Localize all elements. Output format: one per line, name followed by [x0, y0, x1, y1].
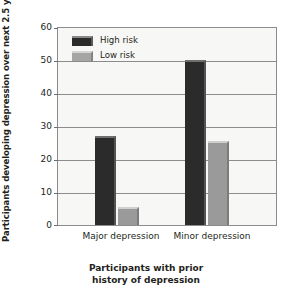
legend-item-high-risk: High risk [72, 34, 168, 47]
legend-label-high-risk: High risk [100, 36, 138, 45]
gridline-40 [58, 94, 276, 95]
y-tickmark-30 [54, 127, 58, 128]
y-tickmark-0 [54, 225, 58, 226]
y-tick-label-60: 60 [26, 23, 52, 32]
y-axis-title: Participants developing depression over … [2, 0, 11, 242]
x-category-label-minor-depression: Minor depression [157, 232, 267, 241]
x-axis-title-line-2: history of depression [0, 274, 292, 286]
bar-minor-depression-low-risk [208, 141, 229, 225]
legend-swatch-low-risk [72, 51, 93, 61]
y-axis-tick-labels: 60 50 40 30 20 10 0 [24, 0, 52, 246]
gridline-30 [58, 127, 276, 128]
y-tickmark-50 [54, 61, 58, 62]
plot-area: High risk Low risk [57, 27, 277, 226]
y-axis-title-container: Participants developing depression over … [0, 0, 20, 246]
bar-major-depression-low-risk [118, 207, 139, 225]
gridline-20 [58, 160, 276, 161]
x-axis-title-line-1: Participants with prior [0, 262, 292, 274]
chart-legend: High risk Low risk [72, 34, 168, 64]
x-axis-title: Participants with prior history of depre… [0, 262, 292, 286]
y-tick-label-40: 40 [26, 89, 52, 98]
y-tick-label-50: 50 [26, 56, 52, 65]
y-tick-label-0: 0 [26, 221, 52, 230]
bar-minor-depression-high-risk [185, 60, 206, 225]
gridline-10 [58, 193, 276, 194]
y-tick-label-30: 30 [26, 122, 52, 131]
bar-chart-figure: Participants developing depression over … [0, 0, 292, 293]
y-tickmark-20 [54, 160, 58, 161]
legend-label-low-risk: Low risk [100, 51, 135, 60]
y-tick-label-10: 10 [26, 188, 52, 197]
bar-major-depression-high-risk [95, 136, 116, 225]
y-tickmark-40 [54, 94, 58, 95]
legend-item-low-risk: Low risk [72, 49, 168, 62]
y-tick-label-20: 20 [26, 155, 52, 164]
legend-swatch-high-risk [72, 36, 93, 46]
y-tickmark-60 [54, 28, 58, 29]
y-tickmark-10 [54, 193, 58, 194]
